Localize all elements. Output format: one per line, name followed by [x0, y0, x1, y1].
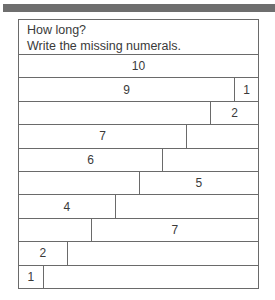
bar-segment-1: 1 [234, 78, 258, 100]
bar-segment-8-blank[interactable] [19, 102, 210, 124]
number-bar-worksheet: How long? Write the missing numerals. 10… [18, 19, 259, 289]
bar-segment-6-blank[interactable] [115, 195, 258, 217]
bar-row-6-4: 6 [19, 149, 258, 172]
bar-row-7-3: 7 [19, 125, 258, 148]
bar-row-3-7: 7 [19, 219, 258, 242]
bar-segment-5: 5 [139, 172, 259, 194]
bar-segment-9: 9 [19, 78, 234, 100]
bar-segment-4-blank[interactable] [162, 149, 258, 171]
bar-row-4-6: 4 [19, 195, 258, 218]
bar-segment-8-blank[interactable] [67, 242, 258, 264]
bar-row-8-2: 2 [19, 102, 258, 125]
worksheet-header: How long? Write the missing numerals. [19, 20, 258, 55]
bar-row-9-1: 9 1 [19, 78, 258, 101]
bar-row-2-8: 2 [19, 242, 258, 265]
bar-rows: 10 9 1 2 7 6 5 4 7 2 [19, 55, 258, 289]
bar-segment-2: 2 [19, 242, 67, 264]
bar-segment-1: 1 [19, 266, 43, 289]
bar-segment-6: 6 [19, 149, 162, 171]
bar-segment-3-blank[interactable] [186, 125, 258, 147]
bar-row-5-5: 5 [19, 172, 258, 195]
worksheet-instruction: Write the missing numerals. [27, 38, 258, 54]
bar-segment-9-blank[interactable] [43, 266, 258, 289]
bar-row-10: 10 [19, 55, 258, 78]
bar-row-1-9: 1 [19, 266, 258, 289]
bar-segment-5-blank[interactable] [19, 172, 139, 194]
bar-segment-10: 10 [19, 55, 258, 77]
bar-segment-3-blank[interactable] [19, 219, 91, 241]
bar-segment-7: 7 [19, 125, 186, 147]
bar-segment-2: 2 [210, 102, 258, 124]
bar-segment-7: 7 [91, 219, 258, 241]
worksheet-title: How long? [27, 22, 258, 38]
bar-segment-4: 4 [19, 195, 115, 217]
top-divider-bar [3, 4, 275, 12]
